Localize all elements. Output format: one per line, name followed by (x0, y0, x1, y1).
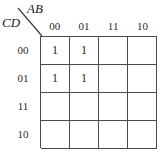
kmap-cell[interactable] (70, 121, 99, 149)
kmap-grid: 1 1 1 1 (40, 36, 157, 148)
kmap-cell[interactable]: 1 (70, 37, 99, 65)
kmap-corner-header: AB CD (0, 0, 44, 38)
kmap-row: 1 1 (41, 37, 157, 65)
karnaugh-map-figure: AB CD 00 01 11 10 00 01 11 10 1 1 1 1 (0, 0, 165, 155)
row-header-0: 00 (8, 36, 38, 64)
column-header-2: 11 (99, 18, 128, 35)
column-header-0: 00 (40, 18, 69, 35)
column-header-1: 01 (69, 18, 98, 35)
kmap-row: 1 1 (41, 65, 157, 93)
kmap-row (41, 121, 157, 149)
kmap-cell[interactable] (128, 121, 157, 149)
row-header-3: 10 (8, 120, 38, 148)
kmap-cell[interactable] (41, 121, 70, 149)
kmap-cell[interactable]: 1 (41, 37, 70, 65)
kmap-cell[interactable] (99, 37, 128, 65)
kmap-cell[interactable] (70, 93, 99, 121)
kmap-cell[interactable]: 1 (41, 65, 70, 93)
kmap-cell[interactable] (99, 121, 128, 149)
row-header-1: 01 (8, 64, 38, 92)
kmap-cell[interactable] (128, 65, 157, 93)
kmap-cell[interactable] (99, 93, 128, 121)
row-variables-label: CD (2, 15, 20, 31)
kmap-cell[interactable]: 1 (70, 65, 99, 93)
kmap-cell[interactable] (99, 65, 128, 93)
column-variables-label: AB (27, 1, 43, 17)
kmap-row (41, 93, 157, 121)
column-header-row: 00 01 11 10 (40, 18, 157, 35)
kmap-cell[interactable] (41, 93, 70, 121)
row-header-column: 00 01 11 10 (8, 36, 38, 148)
kmap-cell[interactable] (128, 37, 157, 65)
column-header-3: 10 (128, 18, 157, 35)
row-header-2: 11 (8, 92, 38, 120)
kmap-cell[interactable] (128, 93, 157, 121)
